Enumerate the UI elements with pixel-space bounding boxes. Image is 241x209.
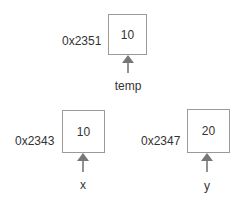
memory-cell-y: 20 [187,109,230,153]
variable-label-y: y [187,179,227,193]
cell-value-x: 10 [77,125,90,139]
memory-cell-x: 10 [62,110,105,153]
address-label-x: 0x2343 [15,134,54,148]
address-label-y: 0x2347 [141,134,180,148]
pointer-arrow-icon [200,153,214,173]
memory-cell-temp: 10 [108,14,147,55]
cell-value-temp: 10 [121,28,134,42]
pointer-arrow-icon [76,153,90,173]
pointer-arrow-icon [121,55,135,75]
variable-label-x: x [63,178,103,192]
variable-label-temp: temp [108,79,148,93]
cell-value-y: 20 [202,124,215,138]
memory-diagram: 0x2351 10 temp 0x2343 10 x 0x2347 20 y [0,0,241,209]
address-label-temp: 0x2351 [62,34,101,48]
